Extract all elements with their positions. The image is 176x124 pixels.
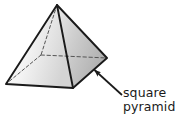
square-pyramid-figure: square pyramid — [0, 0, 176, 124]
solid-label: square pyramid — [123, 86, 176, 113]
callout-arrow — [95, 70, 123, 95]
solid-label-line-1: square — [123, 86, 176, 100]
solid-label-line-2: pyramid — [123, 100, 176, 114]
